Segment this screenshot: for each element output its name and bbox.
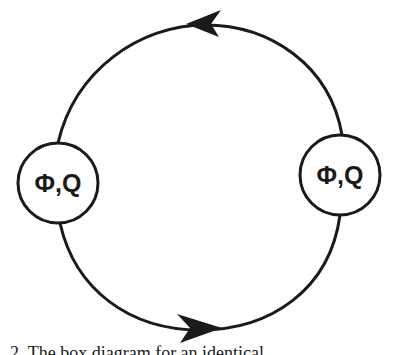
upper-arc-edge: [58, 25, 342, 143]
node-left: Φ,Q: [18, 143, 98, 223]
loop-diagram: Φ,Q Φ,Q: [0, 0, 404, 355]
lower-arc-edge: [60, 215, 340, 330]
arrow-left-icon: [186, 10, 221, 37]
node-left-label: Φ,Q: [35, 169, 82, 197]
figure-caption: 2. The box diagram for an identical ...: [10, 344, 404, 355]
node-right: Φ,Q: [300, 135, 380, 215]
node-right-label: Φ,Q: [317, 161, 364, 189]
